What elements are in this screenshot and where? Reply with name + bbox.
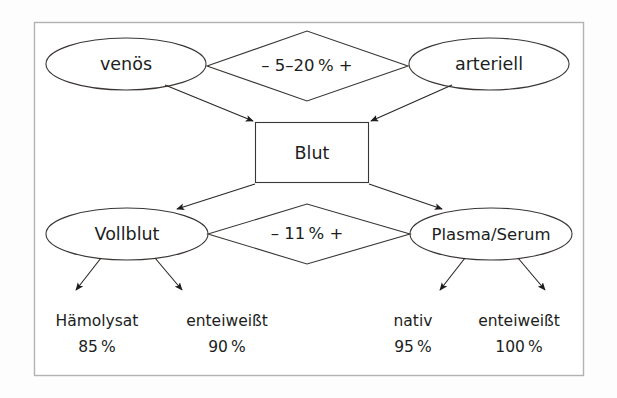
node-blood-label: Blut [295,143,330,163]
leaf-nativ-value: 95 % [394,338,432,356]
leaf-enteiweisst-left-value: 90 % [208,338,246,356]
node-arterial-label: arteriell [455,54,523,74]
node-plasma-serum-label: Plasma/Serum [432,225,551,244]
leaf-enteiweisst-right-label: enteiweißt [478,312,560,330]
figure-root: venös arteriell Blut Vollblut Plasma/Ser… [0,0,617,398]
leaf-nativ-label: nativ [394,312,433,330]
leaf-enteiweisst-right-value: 100 % [495,338,542,356]
diagram-canvas: venös arteriell Blut Vollblut Plasma/Ser… [0,0,617,398]
leaf-haemolysat-label: Hämolysat [56,312,139,330]
node-venous-label: venös [100,54,152,74]
delta-bottom-label: – 11 % + [271,224,344,243]
delta-top-label: – 5–20 % + [261,56,352,75]
leaf-haemolysat-value: 85 % [78,338,116,356]
leaf-enteiweisst-left-label: enteiweißt [186,312,268,330]
node-whole-blood-label: Vollblut [95,224,160,244]
